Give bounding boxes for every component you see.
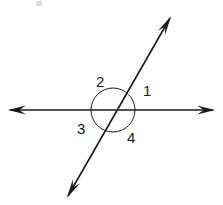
arrowhead-up-right-icon bbox=[158, 16, 171, 35]
geometry-canvas bbox=[0, 0, 223, 205]
diagonal-line-segment bbox=[68, 18, 170, 196]
angle-diagram-figure: 2 1 3 4 bbox=[0, 0, 223, 205]
arrowhead-down-left-icon bbox=[67, 179, 80, 198]
angle-label-3: 3 bbox=[77, 121, 85, 136]
horizontal-line bbox=[8, 106, 215, 115]
angle-label-4: 4 bbox=[127, 130, 135, 145]
angle-label-1: 1 bbox=[143, 83, 151, 98]
angle-label-2: 2 bbox=[96, 74, 104, 89]
diagonal-line bbox=[67, 16, 171, 197]
